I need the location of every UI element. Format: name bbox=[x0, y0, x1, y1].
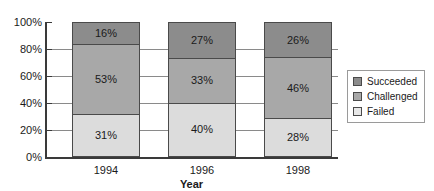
legend-label: Challenged bbox=[367, 92, 418, 102]
legend-swatch-icon bbox=[353, 77, 362, 86]
legend-item-failed[interactable]: Failed bbox=[353, 105, 419, 118]
x-tick-label-1996: 1996 bbox=[157, 164, 247, 176]
segment-value-label: 31% bbox=[95, 130, 117, 141]
x-axis-line bbox=[45, 157, 338, 159]
segment-challenged: 53% bbox=[73, 45, 139, 115]
segment-challenged: 46% bbox=[265, 58, 331, 119]
y-tick-label: 60% bbox=[20, 69, 42, 83]
segment-failed: 31% bbox=[73, 115, 139, 156]
legend-swatch-icon bbox=[353, 92, 362, 101]
legend-swatch-icon bbox=[353, 107, 362, 116]
legend-item-challenged[interactable]: Challenged bbox=[353, 90, 419, 103]
plot-area: 16% 53% 31% 27% 33% 40% 26% bbox=[45, 22, 338, 157]
legend-label: Succeeded bbox=[367, 77, 417, 87]
legend-item-succeeded[interactable]: Succeeded bbox=[353, 75, 419, 88]
segment-value-label: 46% bbox=[287, 83, 309, 94]
y-tick-label: 0% bbox=[26, 150, 42, 164]
segment-value-label: 40% bbox=[191, 124, 213, 135]
segment-failed: 40% bbox=[169, 104, 235, 156]
segment-succeeded: 27% bbox=[169, 23, 235, 59]
legend: Succeeded Challenged Failed bbox=[347, 70, 425, 123]
segment-succeeded: 16% bbox=[73, 23, 139, 45]
y-tick-label: 40% bbox=[20, 96, 42, 110]
bar-1998[interactable]: 26% 46% 28% bbox=[264, 22, 332, 157]
bar-1994[interactable]: 16% 53% 31% bbox=[72, 22, 140, 157]
segment-value-label: 27% bbox=[191, 35, 213, 46]
segment-value-label: 28% bbox=[287, 132, 309, 143]
segment-value-label: 26% bbox=[287, 35, 309, 46]
segment-value-label: 33% bbox=[191, 75, 213, 86]
segment-challenged: 33% bbox=[169, 59, 235, 103]
segment-succeeded: 26% bbox=[265, 23, 331, 58]
y-tick-label: 20% bbox=[20, 123, 42, 137]
y-tick-label: 80% bbox=[20, 42, 42, 56]
segment-failed: 28% bbox=[265, 119, 331, 156]
x-tick-label-1994: 1994 bbox=[61, 164, 151, 176]
segment-value-label: 16% bbox=[95, 28, 117, 39]
y-tick-label: 100% bbox=[14, 15, 42, 29]
bar-1996[interactable]: 27% 33% 40% bbox=[168, 22, 236, 157]
segment-value-label: 53% bbox=[95, 74, 117, 85]
stacked-bar-chart: 100% 80% 60% 40% 20% 0% bbox=[0, 0, 434, 191]
legend-label: Failed bbox=[367, 107, 394, 117]
x-tick-label-1998: 1998 bbox=[253, 164, 343, 176]
x-axis-title: Year bbox=[45, 178, 338, 190]
